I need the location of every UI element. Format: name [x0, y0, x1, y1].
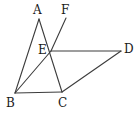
segment-ef — [51, 18, 66, 51]
vertex-label-f: F — [61, 4, 69, 16]
vertex-label-c: C — [58, 97, 67, 109]
segment-ab — [15, 19, 39, 93]
segment-cd — [62, 51, 121, 92]
vertex-label-e: E — [38, 44, 47, 56]
geometry-figure: ABCDEF — [0, 0, 140, 117]
segment-bc — [15, 92, 62, 93]
vertex-label-b: B — [6, 97, 15, 109]
segment-be — [15, 51, 51, 93]
vertex-label-d: D — [124, 43, 134, 55]
vertex-label-a: A — [33, 4, 42, 16]
segments-group — [15, 18, 121, 93]
geometry-canvas — [0, 0, 140, 117]
